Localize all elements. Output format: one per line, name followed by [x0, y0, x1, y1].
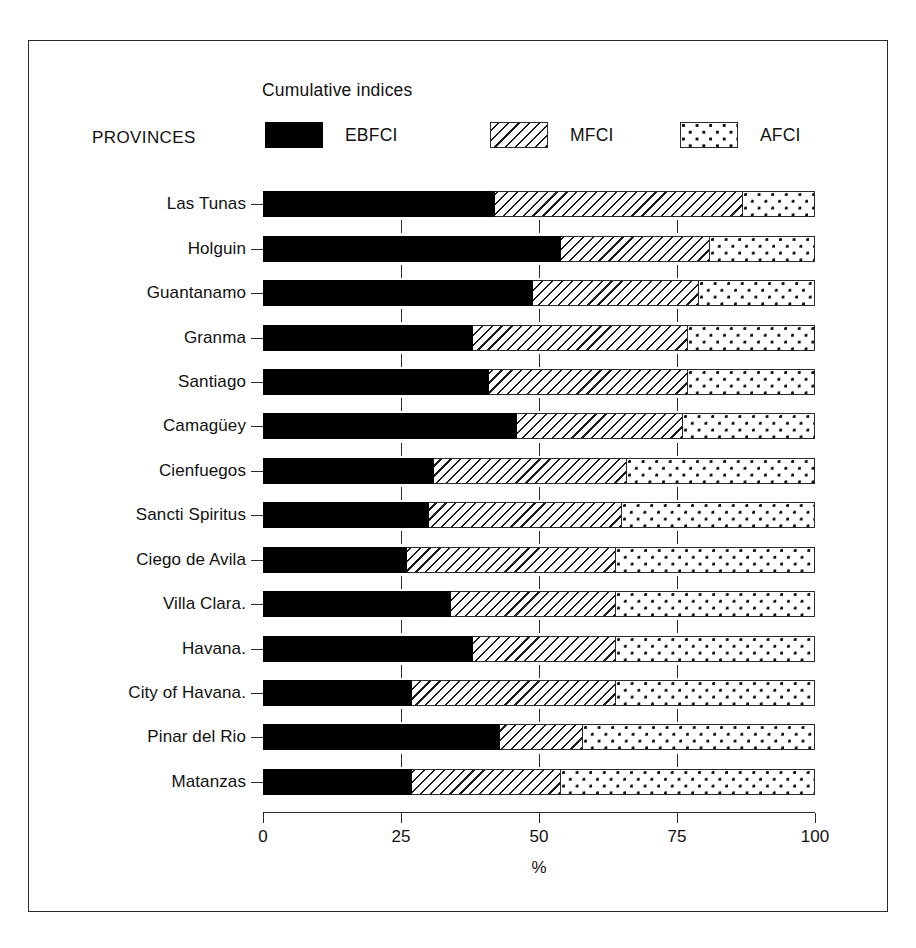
bar-row: Guantanamo: [263, 280, 815, 306]
bar-segment-mfci[interactable]: [533, 280, 699, 306]
bar-segment-afci[interactable]: [688, 325, 815, 351]
bar-row: City of Havana.: [263, 680, 815, 706]
bar-segment-mfci[interactable]: [407, 547, 617, 573]
bar-segment-mfci[interactable]: [429, 502, 622, 528]
bar-segment-ebfci[interactable]: [263, 724, 500, 750]
bar-segment-ebfci[interactable]: [263, 547, 407, 573]
bar-segment-mfci[interactable]: [451, 591, 617, 617]
stacked-bar[interactable]: [263, 191, 815, 217]
legend-label-afci: AFCI: [760, 125, 801, 146]
bar-segment-mfci[interactable]: [517, 413, 683, 439]
bar-segment-mfci[interactable]: [473, 325, 688, 351]
bar-segment-afci[interactable]: [616, 591, 815, 617]
bar-segment-afci[interactable]: [583, 724, 815, 750]
stacked-bar[interactable]: [263, 547, 815, 573]
stacked-bar[interactable]: [263, 236, 815, 262]
category-tick: [251, 204, 263, 205]
category-label: Villa Clara.: [163, 594, 246, 614]
bar-segment-ebfci[interactable]: [263, 769, 412, 795]
gridline-dash: [677, 265, 678, 278]
x-axis-tick-label: 25: [392, 827, 411, 847]
bar-segment-afci[interactable]: [688, 369, 815, 395]
bar-segment-ebfci[interactable]: [263, 680, 412, 706]
x-axis-label: %: [263, 858, 815, 878]
x-axis-tick: [815, 813, 816, 823]
stacked-bar[interactable]: [263, 280, 815, 306]
legend-item-ebfci: EBFCI: [265, 122, 398, 148]
bar-segment-mfci[interactable]: [561, 236, 710, 262]
category-label: Ciego de Avila: [136, 550, 246, 570]
category-tick: [251, 382, 263, 383]
bar-segment-ebfci[interactable]: [263, 413, 517, 439]
bar-segment-afci[interactable]: [561, 769, 815, 795]
bar-segment-afci[interactable]: [710, 236, 815, 262]
bar-segment-ebfci[interactable]: [263, 191, 495, 217]
stacked-bar[interactable]: [263, 680, 815, 706]
stacked-bar[interactable]: [263, 724, 815, 750]
bar-segment-ebfci[interactable]: [263, 369, 489, 395]
bar-segment-mfci[interactable]: [495, 191, 743, 217]
gridline-dash: [677, 220, 678, 233]
bar-segment-ebfci[interactable]: [263, 458, 434, 484]
gridline-dash: [539, 576, 540, 589]
bar-segment-afci[interactable]: [627, 458, 815, 484]
gridline-dash: [539, 443, 540, 456]
bar-segment-afci[interactable]: [743, 191, 815, 217]
gridline-dash: [677, 754, 678, 767]
bar-segment-ebfci[interactable]: [263, 325, 473, 351]
legend-swatch-afci-icon: [680, 122, 738, 148]
bar-segment-afci[interactable]: [616, 547, 815, 573]
stacked-bar[interactable]: [263, 636, 815, 662]
gridline-dash: [677, 487, 678, 500]
category-tick: [251, 293, 263, 294]
gridline-dash: [539, 309, 540, 322]
figure-canvas: Cumulative indices PROVINCES EBFCI MFCI …: [0, 0, 916, 948]
bar-segment-afci[interactable]: [616, 636, 815, 662]
gridline-dash: [539, 354, 540, 367]
bar-segment-mfci[interactable]: [473, 636, 617, 662]
bar-segment-mfci[interactable]: [412, 680, 616, 706]
bar-row: Ciego de Avila: [263, 547, 815, 573]
bar-segment-mfci[interactable]: [500, 724, 583, 750]
x-axis-tick: [401, 813, 402, 823]
gridline-dash: [677, 709, 678, 722]
bar-segment-ebfci[interactable]: [263, 636, 473, 662]
bar-row: Cienfuegos: [263, 458, 815, 484]
bar-segment-mfci[interactable]: [412, 769, 561, 795]
category-label: Pinar del Rio: [147, 727, 246, 747]
x-axis-tick: [677, 813, 678, 823]
bar-segment-mfci[interactable]: [489, 369, 688, 395]
stacked-bar[interactable]: [263, 325, 815, 351]
bar-segment-ebfci[interactable]: [263, 502, 429, 528]
stacked-bar[interactable]: [263, 458, 815, 484]
gridline-dash: [401, 309, 402, 322]
bar-segment-afci[interactable]: [699, 280, 815, 306]
plot-area: Las TunasHolguinGuantanamoGranmaSantiago…: [263, 184, 815, 806]
stacked-bar[interactable]: [263, 413, 815, 439]
x-axis-tick-label: 0: [258, 827, 267, 847]
bar-segment-ebfci[interactable]: [263, 591, 451, 617]
stacked-bar[interactable]: [263, 591, 815, 617]
gridline-dash: [539, 265, 540, 278]
gridline-dash: [401, 354, 402, 367]
stacked-bar[interactable]: [263, 769, 815, 795]
bar-segment-ebfci[interactable]: [263, 236, 561, 262]
bar-segment-afci[interactable]: [683, 413, 815, 439]
gridline-dash: [401, 265, 402, 278]
stacked-bar[interactable]: [263, 369, 815, 395]
bar-row: Granma: [263, 325, 815, 351]
bar-row: Santiago: [263, 369, 815, 395]
category-tick: [251, 649, 263, 650]
legend-label-ebfci: EBFCI: [345, 125, 398, 146]
bar-segment-afci[interactable]: [622, 502, 815, 528]
bar-segment-afci[interactable]: [616, 680, 815, 706]
gridline-dash: [401, 665, 402, 678]
bar-segment-mfci[interactable]: [434, 458, 627, 484]
category-label: Camagüey: [163, 416, 246, 436]
gridline-dash: [677, 576, 678, 589]
bar-segment-ebfci[interactable]: [263, 280, 533, 306]
stacked-bar[interactable]: [263, 502, 815, 528]
x-axis-tick-label: 50: [530, 827, 549, 847]
gridline-dash: [677, 443, 678, 456]
category-label: City of Havana.: [128, 683, 246, 703]
